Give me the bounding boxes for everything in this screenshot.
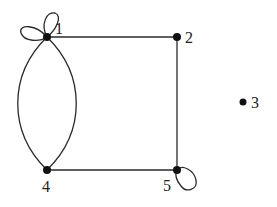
node-5-label: 5	[163, 177, 171, 194]
edge-1-4-left	[18, 37, 47, 170]
node-3-label: 3	[251, 94, 259, 111]
node-4	[43, 166, 51, 174]
node-2	[173, 33, 181, 41]
node-5	[173, 166, 181, 174]
node-2-label: 2	[185, 29, 193, 46]
node-1-label: 1	[55, 20, 63, 37]
node-3	[240, 99, 247, 106]
node-4-label: 4	[42, 178, 50, 195]
node-1	[43, 33, 51, 41]
loop-1-left	[21, 27, 47, 41]
edge-1-4-right	[47, 37, 76, 170]
graph-diagram: 1 2 3 4 5	[0, 0, 277, 207]
